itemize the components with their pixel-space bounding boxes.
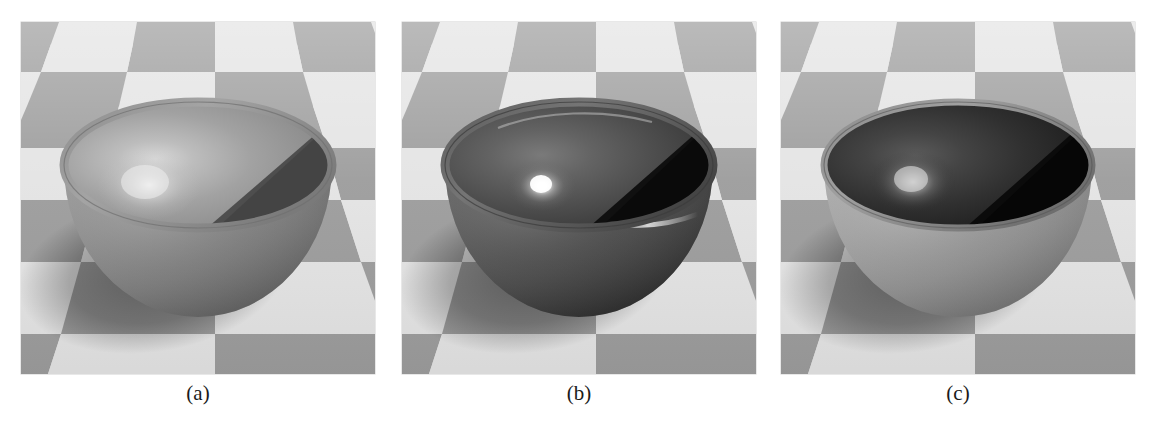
figure-panel-c: (c) bbox=[781, 22, 1135, 374]
figure-panel-b: (b) bbox=[402, 22, 756, 374]
figure-panel-a: (a) bbox=[21, 22, 375, 374]
bowl-scene-a bbox=[21, 22, 375, 374]
rendered-image-c bbox=[781, 22, 1135, 374]
panel-caption-b: (b) bbox=[402, 378, 756, 408]
figure-root: (a) bbox=[0, 0, 1153, 430]
panel-caption-a: (a) bbox=[21, 378, 375, 408]
bowl-scene-b bbox=[402, 22, 756, 374]
bowl-scene-c bbox=[781, 22, 1135, 374]
rendered-image-a bbox=[21, 22, 375, 374]
rendered-image-b bbox=[402, 22, 756, 374]
panel-caption-c: (c) bbox=[781, 378, 1135, 408]
